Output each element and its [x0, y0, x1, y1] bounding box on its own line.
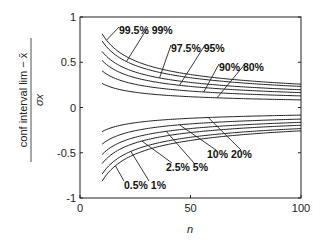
x-axis-label: n [187, 223, 193, 235]
leader-line-5pct [166, 131, 194, 163]
x-tick-label: 0 [77, 202, 83, 214]
leader-line-1pct [131, 151, 149, 181]
x-tick-label: 100 [292, 202, 310, 214]
y-tick-label: 0.5 [61, 56, 76, 68]
y-tick-label: -1 [66, 192, 76, 204]
leader-line-97.5pct [160, 45, 171, 78]
annotation-label-0.5-1: 0.5% 1% [124, 179, 167, 191]
y-tick-label: 0 [70, 102, 76, 114]
y-tick-label: -0.5 [57, 147, 76, 159]
leader-line-20pct [208, 118, 241, 151]
y-axis-label-numerator: conf interval lim − x̄ [17, 52, 29, 147]
x-tick-label: 50 [184, 202, 196, 214]
annotation-label-97.5-95: 97.5% 95% [171, 42, 225, 54]
y-tick-label: 1 [70, 11, 76, 23]
chart: 10.50-0.5-1050100 99.5% 99% 97.5% 95% 90… [0, 0, 325, 244]
annotation-label-99.5-99: 99.5% 99% [119, 24, 173, 36]
y-axis-label-denominator: σx [33, 93, 45, 106]
y-axis-label: conf interval lim − x̄ σx [17, 38, 45, 162]
leader-line-0.5pct [115, 166, 124, 181]
annotation-label-10-20: 10% 20% [207, 148, 253, 160]
annotation-label-2.5-5: 2.5% 5% [166, 161, 209, 173]
annotation-label-90-80: 90% 80% [219, 61, 265, 73]
leader-line-99.5pct [107, 27, 119, 40]
